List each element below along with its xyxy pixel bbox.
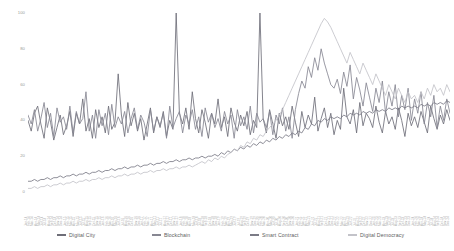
- series-svg: [28, 0, 450, 200]
- legend-label: Digital Democracy: [360, 232, 404, 238]
- legend-label: Smart Contract: [262, 232, 299, 238]
- legend-item-blockchain[interactable]: Blockchain: [152, 232, 190, 238]
- plot-area: 020406080100: [0, 0, 454, 200]
- legend-label: Blockchain: [164, 232, 190, 238]
- y-tick-label: 80: [20, 47, 25, 51]
- x-axis: Jan-14Feb-14Mar-14Apr-14May-14Jun-14Jul-…: [28, 198, 450, 226]
- y-tick-label: 60: [20, 82, 25, 86]
- y-axis: 020406080100: [0, 0, 28, 200]
- legend-swatch-icon: [57, 234, 66, 235]
- legend-label: Digital City: [69, 232, 95, 238]
- x-tick-label: Dec-24: [447, 216, 450, 226]
- legend-item-digital-democracy[interactable]: Digital Democracy: [348, 232, 404, 238]
- y-tick-label: 0: [23, 190, 25, 194]
- line-chart: 020406080100 Jan-14Feb-14Mar-14Apr-14May…: [0, 0, 454, 251]
- legend-swatch-icon: [250, 234, 259, 235]
- y-tick-label: 100: [18, 11, 25, 15]
- series-line: [28, 101, 450, 182]
- chart-legend: Digital CityBlockchainSmart ContractDigi…: [0, 228, 454, 242]
- legend-swatch-icon: [348, 234, 357, 235]
- y-tick-label: 40: [20, 118, 25, 122]
- legend-item-smart-contract[interactable]: Smart Contract: [250, 232, 299, 238]
- legend-swatch-icon: [152, 234, 161, 235]
- y-tick-label: 20: [20, 154, 25, 158]
- legend-item-digital-city[interactable]: Digital City: [57, 232, 95, 238]
- series-canvas: [28, 0, 450, 200]
